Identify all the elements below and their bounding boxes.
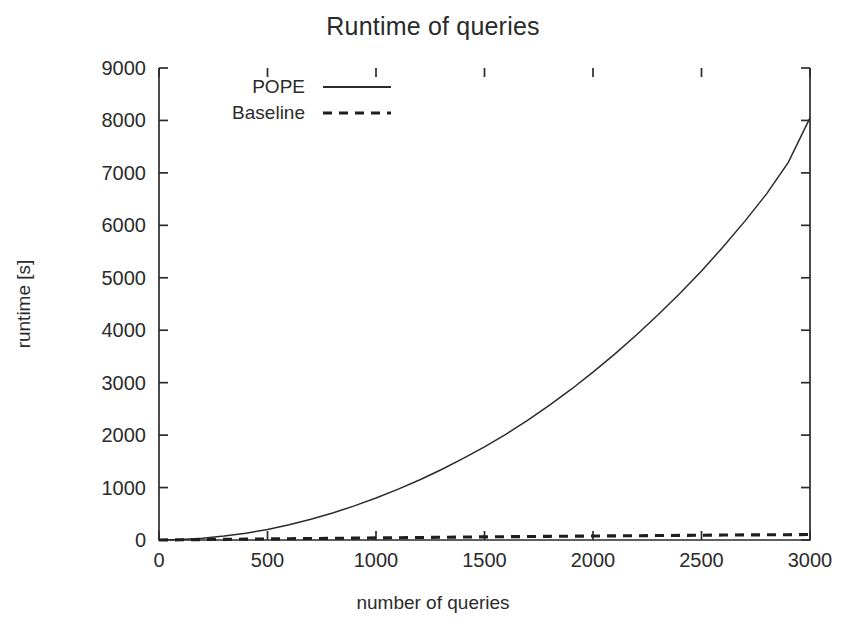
chart-container: Runtime of queries 010002000300040005000… (0, 0, 866, 640)
y-tick-label: 3000 (60, 371, 146, 394)
y-tick-label: 1000 (60, 476, 146, 499)
legend-entry-baseline: Baseline (196, 100, 411, 126)
y-tick-label: 0 (60, 529, 146, 552)
legend-sample-dashed-icon (321, 106, 393, 120)
x-tick-label: 500 (251, 549, 284, 572)
y-axis-title: runtime [s] (13, 260, 35, 349)
x-axis-ticks (159, 68, 810, 540)
legend-label-pope: POPE (196, 76, 321, 98)
x-tick-label: 1000 (354, 549, 399, 572)
y-tick-label: 7000 (60, 161, 146, 184)
chart-legend: POPE Baseline (196, 74, 411, 126)
x-tick-label: 2000 (571, 549, 616, 572)
x-tick-label: 2500 (679, 549, 724, 572)
axis-frame-path (159, 68, 810, 540)
x-axis-title: number of queries (0, 592, 866, 614)
y-axis-ticks (159, 68, 810, 540)
x-tick-label: 0 (153, 549, 164, 572)
axes-frame (159, 68, 810, 540)
y-tick-label: 8000 (60, 109, 146, 132)
y-tick-label: 5000 (60, 266, 146, 289)
y-tick-label: 2000 (60, 424, 146, 447)
y-tick-label: 4000 (60, 319, 146, 342)
legend-label-baseline: Baseline (196, 102, 321, 124)
legend-sample-solid-icon (321, 80, 393, 94)
x-tick-label: 3000 (788, 549, 833, 572)
series-line-pope (159, 118, 810, 540)
y-tick-label: 9000 (60, 57, 146, 80)
x-tick-label: 1500 (462, 549, 507, 572)
y-tick-label: 6000 (60, 214, 146, 237)
legend-entry-pope: POPE (196, 74, 411, 100)
